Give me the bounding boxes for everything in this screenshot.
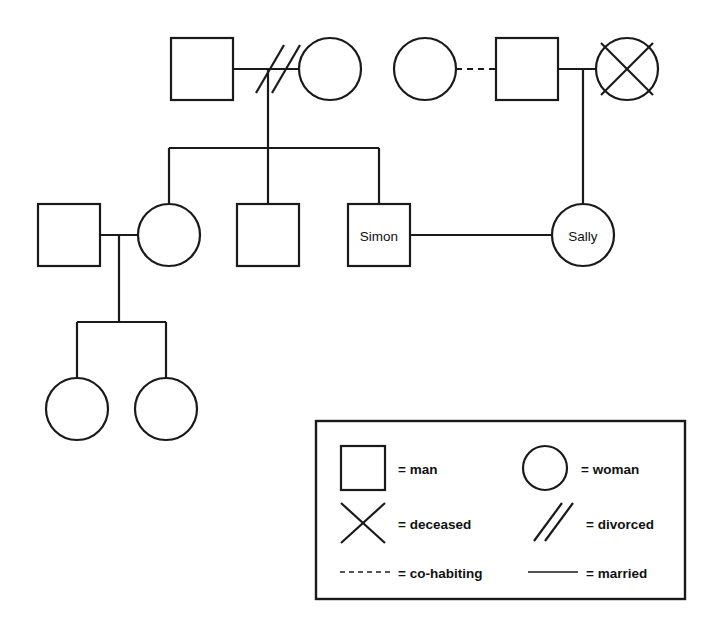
legend-label-man: = man (398, 462, 437, 477)
person-node-g2-daughter (138, 204, 200, 266)
legend-label-cohabiting: = co-habiting (398, 566, 482, 581)
person-node-g2-husband (38, 204, 100, 266)
legend-label-woman: = woman (581, 462, 639, 477)
legend-label-divorced: = divorced (586, 517, 654, 532)
legend-circle-icon (523, 446, 567, 490)
person-node-g3-daughter-2 (135, 378, 197, 440)
genogram-canvas: Simon Sally = man = woman = deceased = d… (0, 0, 702, 633)
person-label-sally: Sally (568, 229, 598, 244)
person-label-simon: Simon (360, 229, 398, 244)
person-node-g1-mother-left (299, 38, 361, 100)
person-node-g1-man-right (496, 38, 558, 100)
legend-label-married: = married (586, 566, 647, 581)
person-node-g3-daughter-1 (46, 378, 108, 440)
genogram-diagram: Simon Sally = man = woman = deceased = d… (0, 0, 702, 633)
person-node-g2-son-middle (237, 204, 299, 266)
legend-label-deceased: = deceased (398, 517, 471, 532)
person-node-g1-woman-right (394, 38, 456, 100)
person-node-g1-father-left (171, 38, 233, 100)
legend-square-icon (341, 446, 385, 490)
